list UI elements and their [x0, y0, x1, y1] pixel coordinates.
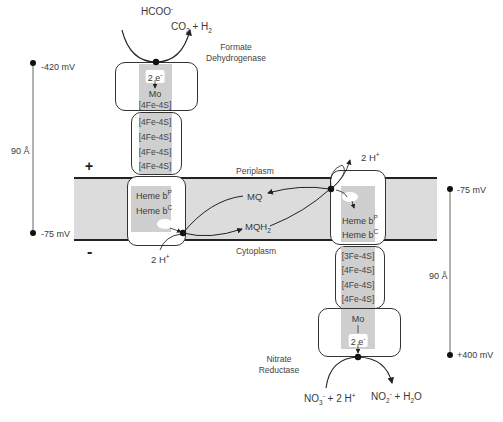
mq-arrow	[268, 187, 330, 193]
right-scale-bar	[447, 186, 453, 358]
left-scale-bar	[30, 60, 36, 236]
nitrate-reaction-arrow	[326, 357, 392, 388]
pathway-arrows	[0, 0, 503, 422]
mqh2-arrow	[183, 229, 242, 236]
formate-reaction-arrow	[122, 30, 190, 62]
